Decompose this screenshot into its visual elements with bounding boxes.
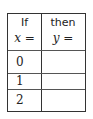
- header-x-label: If: [21, 16, 28, 29]
- header-y-label: then: [50, 16, 75, 29]
- input-output-table: If x = then y = 0 1 2: [7, 13, 86, 112]
- y-variable: y: [53, 31, 60, 45]
- header-y-equation: y =: [41, 32, 85, 44]
- table-row-x-value: 1: [16, 75, 24, 87]
- header-x: If x =: [8, 17, 41, 44]
- row-divider: [8, 89, 85, 90]
- header-y: then y =: [41, 17, 85, 44]
- equals-sign: =: [63, 31, 73, 45]
- x-variable: x: [14, 31, 21, 45]
- header-x-equation: x =: [8, 32, 41, 44]
- equals-sign: =: [25, 31, 35, 45]
- table-row-x-value: 2: [16, 94, 24, 106]
- header-divider: [8, 50, 85, 51]
- table-row-x-value: 0: [16, 56, 24, 68]
